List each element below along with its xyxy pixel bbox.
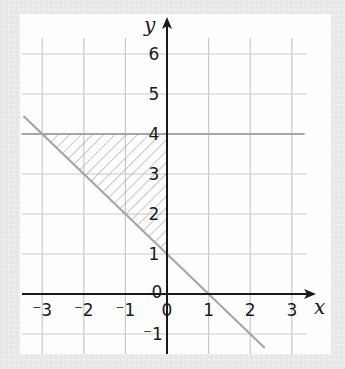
x-tick-label: 1: [203, 300, 214, 320]
y-tick-label: 0: [152, 282, 163, 302]
y-tick-label: 6: [149, 44, 160, 64]
x-tick-label: 0: [162, 300, 173, 320]
x-tick-label: ⁻2: [74, 300, 94, 320]
x-tick-label: 3: [286, 300, 297, 320]
x-tick-label: ⁻3: [32, 300, 52, 320]
y-tick-label: 5: [149, 84, 160, 104]
y-tick-label: ⁻1: [143, 324, 163, 344]
y-tick-label: 2: [149, 204, 160, 224]
x-axis-label: x: [314, 295, 325, 319]
y-tick-label: 3: [149, 164, 160, 184]
y-axis-label: y: [143, 13, 156, 37]
y-tick-label: 1: [149, 244, 160, 264]
x-tick-label: 2: [245, 300, 256, 320]
coordinate-plane: ⁻3⁻2⁻10123⁻10123456 x y: [0, 0, 345, 369]
x-tick-label: ⁻1: [116, 300, 136, 320]
y-tick-label: 4: [149, 124, 160, 144]
